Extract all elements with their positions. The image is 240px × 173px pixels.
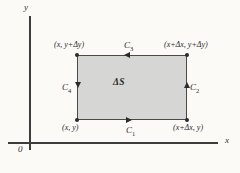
x-axis-label: x [225,136,229,145]
region-label: ΔS [113,78,125,88]
figure-canvas: y x 0 ΔS (x, y+Δy) (x+Δx, y+Δy) (x, y) (… [0,0,240,173]
curve-c4-sub: 4 [68,87,71,94]
curve-label-c2: C2 [190,83,199,94]
vertex-label-top-right: (x+Δx, y+Δy) [164,41,208,49]
arrow-c2-up [184,82,190,88]
vertex-dot-top-right [185,53,189,57]
arrow-c4-down [75,82,81,88]
vertex-dot-top-left [75,53,79,57]
curve-c2-sub: 2 [196,87,199,94]
curve-label-c1: C1 [126,126,135,137]
origin-label: 0 [18,145,23,154]
region-rectangle [77,55,187,120]
arrow-c1-right [126,117,132,123]
curve-c3-sub: 3 [130,45,133,52]
x-axis [8,142,218,144]
curve-label-c3: C3 [124,41,133,52]
arrow-c3-left [124,52,130,58]
y-axis-label: y [24,3,28,12]
vertex-label-bottom-right: (x+Δx, y) [173,124,203,132]
curve-c1-sub: 1 [132,130,135,137]
vertex-label-bottom-left: (x, y) [62,124,78,132]
vertex-dot-bottom-right [185,118,189,122]
vertex-label-top-left: (x, y+Δy) [54,41,84,49]
curve-label-c4: C4 [62,83,71,94]
y-axis [29,16,31,150]
vertex-dot-bottom-left [75,118,79,122]
